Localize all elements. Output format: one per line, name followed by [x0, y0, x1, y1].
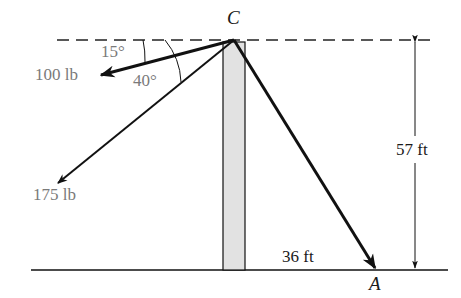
angle-arc-15: [143, 40, 145, 62]
angle-15-label: 15°: [101, 43, 125, 60]
cable-CA-arrow: [234, 40, 375, 268]
point-C-label: C: [227, 8, 240, 27]
horizontal-36ft-label: 36 ft: [282, 248, 314, 265]
force-175lb-arrow: [58, 40, 234, 183]
force-100lb-label: 100 lb: [35, 66, 78, 83]
diagram-canvas: [0, 0, 461, 298]
angle-40-label: 40°: [133, 72, 157, 89]
pole: [223, 42, 245, 270]
force-175lb-label: 175 lb: [33, 186, 76, 203]
angle-arc-40: [165, 40, 181, 82]
height-57ft-label: 57 ft: [396, 141, 428, 158]
point-A-label: A: [369, 274, 381, 293]
